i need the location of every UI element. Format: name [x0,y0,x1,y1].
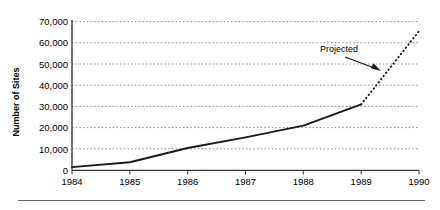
chart-figure: 70,000 60,000 50,000 40,000 30,000 20,00… [0,0,440,210]
x-tick-label-1989: 1989 [339,176,383,187]
gridlines [72,22,419,149]
x-tick-label-1990: 1990 [397,176,440,187]
x-tick-label-1984: 1984 [50,176,94,187]
x-tick-label-1987: 1987 [224,176,268,187]
x-tick-label-1988: 1988 [281,176,325,187]
annotation-projected-label: Projected [320,44,358,54]
bottom-divider [18,200,425,201]
x-tick-label-1985: 1985 [108,176,152,187]
data-line-actual [72,104,361,167]
data-line-projected [361,31,419,104]
x-axis-ticks [72,170,419,174]
x-tick-label-1986: 1986 [166,176,210,187]
